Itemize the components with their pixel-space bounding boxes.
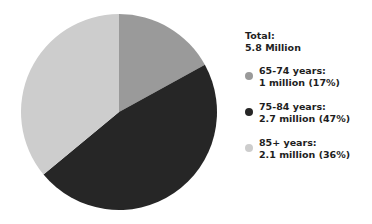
legend-swatch-icon [245, 108, 253, 116]
legend-item-value: 2.1 million (36%) [259, 149, 370, 161]
legend-item-label: 75-84 years: [259, 101, 370, 113]
total-label: Total: [245, 30, 370, 42]
legend-item-label: 85+ years: [259, 137, 370, 149]
legend: Total: 5.8 Million 65-74 years: 1 millio… [245, 30, 370, 173]
legend-item-75-84: 75-84 years: 2.7 million (47%) [245, 101, 370, 125]
pie-graphic [0, 0, 240, 224]
legend-item-value: 2.7 million (47%) [259, 113, 370, 125]
legend-swatch-icon [245, 144, 253, 152]
legend-total: Total: 5.8 Million [245, 30, 370, 54]
legend-item-85-plus: 85+ years: 2.1 million (36%) [245, 137, 370, 161]
legend-item-label: 65-74 years: [259, 65, 370, 77]
total-value: 5.8 Million [245, 42, 370, 54]
legend-item-65-74: 65-74 years: 1 million (17%) [245, 65, 370, 89]
pie-chart: Total: 5.8 Million 65-74 years: 1 millio… [0, 0, 372, 224]
legend-swatch-icon [245, 72, 253, 80]
legend-item-value: 1 million (17%) [259, 77, 370, 89]
